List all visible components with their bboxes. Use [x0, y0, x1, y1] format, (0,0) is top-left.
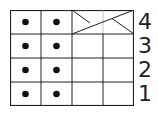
- purl-dot-icon: [22, 91, 29, 98]
- row-label-2: 2: [138, 58, 154, 82]
- purl-dot-icon: [22, 43, 29, 50]
- purl-dot-icon: [53, 91, 60, 98]
- row-label-3: 3: [138, 34, 154, 58]
- purl-dot-icon: [53, 19, 60, 26]
- purl-dot-icon: [22, 19, 29, 26]
- purl-dot-icon: [22, 67, 29, 74]
- stitch-chart: [10, 10, 134, 106]
- row-label-4: 4: [138, 10, 154, 34]
- stitch-grid: [10, 10, 134, 106]
- purl-dot-icon: [53, 67, 60, 74]
- purl-dot-icon: [53, 43, 60, 50]
- row-label-1: 1: [138, 82, 154, 106]
